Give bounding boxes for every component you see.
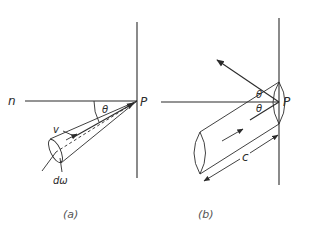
- velocity-leader: [63, 131, 74, 136]
- solid-angle-label: dω: [53, 175, 68, 186]
- cone-edge-lower: [61, 101, 137, 163]
- incident-ray: [250, 102, 279, 120]
- point-p-label-a: P: [140, 95, 148, 109]
- velocity-label: v: [53, 124, 60, 135]
- incident-arrow: [222, 129, 243, 141]
- normal-label: n: [8, 94, 16, 108]
- reflected-ray: [217, 60, 279, 102]
- length-arrow-lower: [204, 159, 240, 181]
- length-arrow-upper: [250, 135, 278, 153]
- cylinder-end-right: [200, 132, 206, 174]
- length-label: c: [242, 150, 249, 164]
- cone-base-ellipse: [46, 138, 66, 165]
- caption-a: (a): [63, 208, 78, 221]
- cone-edge-upper: [50, 101, 137, 139]
- cylinder-end-left: [194, 132, 200, 174]
- caption-b: (b): [198, 208, 214, 221]
- cone-axis-tail: [42, 152, 56, 171]
- theta-reflected-label: θ: [256, 89, 262, 100]
- panel-b: P θ θ c (b): [161, 18, 291, 221]
- cylinder-edge-upper: [200, 82, 279, 132]
- panel-a: n P θ v dω (a): [8, 22, 148, 221]
- solid-angle-leader: [60, 158, 62, 172]
- diagram-canvas: n P θ v dω (a) P: [0, 0, 310, 233]
- theta-incident-label: θ: [256, 103, 262, 114]
- theta-label-a: θ: [102, 104, 108, 115]
